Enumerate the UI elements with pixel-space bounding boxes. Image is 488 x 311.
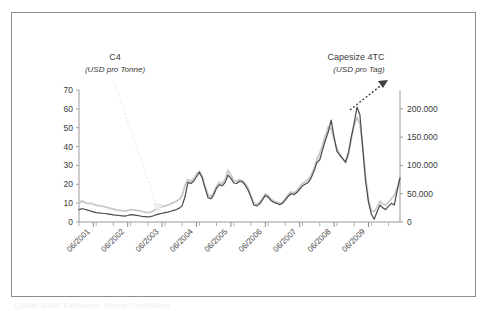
- x-axis-tick-label: 06/2009: [340, 227, 367, 254]
- left-axis-tick-label: 20: [64, 179, 74, 189]
- left-axis-tick-label: 70: [64, 85, 74, 95]
- chart-frame: 010203040506070050.000100.000150.000200.…: [11, 12, 476, 297]
- left-axis-tick-label: 50: [64, 123, 74, 133]
- left-axis-tick-label: 60: [64, 104, 74, 114]
- right-axis-tick-label: 150.000: [407, 132, 438, 142]
- x-axis-tick-label: 06/2003: [134, 227, 161, 254]
- capesize-pointer-arrow: [350, 83, 384, 110]
- bottom-caption: Quelle: Baltic Exchange, eigene Darstell…: [14, 300, 314, 311]
- capesize-label-unit: (USD pro Tag): [333, 65, 385, 74]
- left-axis-tick-label: 40: [64, 142, 74, 152]
- series-line-capesize-4tc: [79, 107, 400, 219]
- x-axis-tick-label: 06/2005: [203, 227, 230, 254]
- capesize-label-title: Capesize 4TC: [327, 52, 385, 62]
- x-axis-tick-label: 06/2004: [168, 227, 195, 254]
- left-axis-tick-label: 10: [64, 198, 74, 208]
- left-axis-tick-label: 0: [68, 217, 73, 227]
- x-axis-tick-label: 06/2008: [306, 227, 333, 254]
- left-axis-tick-label: 30: [64, 160, 74, 170]
- x-axis-tick-label: 06/2002: [99, 227, 126, 254]
- dual-axis-line-chart: 010203040506070050.000100.000150.000200.…: [12, 13, 475, 296]
- c4-pointer-arrowhead: [153, 203, 163, 213]
- c4-label-title: C4: [109, 52, 121, 62]
- bottom-caption-text: Quelle: Baltic Exchange, eigene Darstell…: [14, 300, 314, 311]
- right-axis-tick-label: 100.000: [407, 160, 438, 170]
- x-axis-tick-label: 06/2001: [65, 227, 92, 254]
- c4-pointer-arrow: [113, 79, 158, 209]
- x-axis-tick-label: 06/2006: [237, 227, 264, 254]
- x-axis-tick-label: 06/2007: [271, 227, 298, 254]
- right-axis-tick-label: 200.000: [407, 104, 438, 114]
- right-axis-tick-label: 50.000: [407, 189, 433, 199]
- c4-label-unit: (USD pro Tonne): [85, 65, 146, 74]
- right-axis-tick-label: 0: [407, 217, 412, 227]
